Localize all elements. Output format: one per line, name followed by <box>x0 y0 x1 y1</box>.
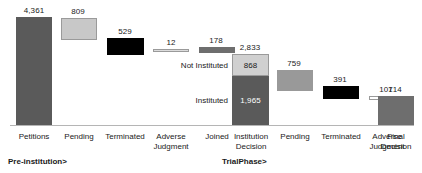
bar-pending-trial <box>277 70 313 91</box>
tick-label-adverse-judgment-pre: Adverse Judgment <box>145 132 197 152</box>
axis-line-right <box>228 125 414 126</box>
bar-value-pending-pre: 809 <box>52 7 104 16</box>
bar-terminated-pre <box>107 38 144 55</box>
bar-value-final-decision: 714 <box>369 85 421 94</box>
bar-value-not-instituted: 868 <box>232 61 269 70</box>
panel-caption-trial-phase: TrialPhase> <box>222 157 267 167</box>
plot-area: 4,361 809 529 12 178 2,833 868 Not Insti… <box>0 0 422 130</box>
panel-caption-pre-institution: Pre-institution> <box>8 157 67 167</box>
segment-label-instituted: Instituted <box>160 96 228 105</box>
bar-pending-pre <box>61 18 97 40</box>
bar-value-institution-decision: 2,833 <box>224 43 276 52</box>
x-axis-tick-labels: Petitions Pending Terminated Adverse Jud… <box>0 130 422 156</box>
bar-adverse-judgment-pre <box>153 49 189 52</box>
segment-label-not-instituted: Not Instituted <box>160 61 228 70</box>
bar-value-instituted: 1,965 <box>232 96 269 105</box>
bar-terminated-trial <box>323 86 359 99</box>
bar-value-terminated-trial: 391 <box>314 75 366 84</box>
bar-value-pending-trial: 759 <box>268 59 320 68</box>
chart-container: 4,361 809 529 12 178 2,833 868 Not Insti… <box>0 0 422 173</box>
axis-line-left <box>10 125 238 126</box>
tick-label-final-decision: Final Decision <box>372 132 420 152</box>
bar-final-decision <box>378 96 414 125</box>
bar-petitions <box>16 17 52 125</box>
bar-value-terminated-pre: 529 <box>99 27 151 36</box>
